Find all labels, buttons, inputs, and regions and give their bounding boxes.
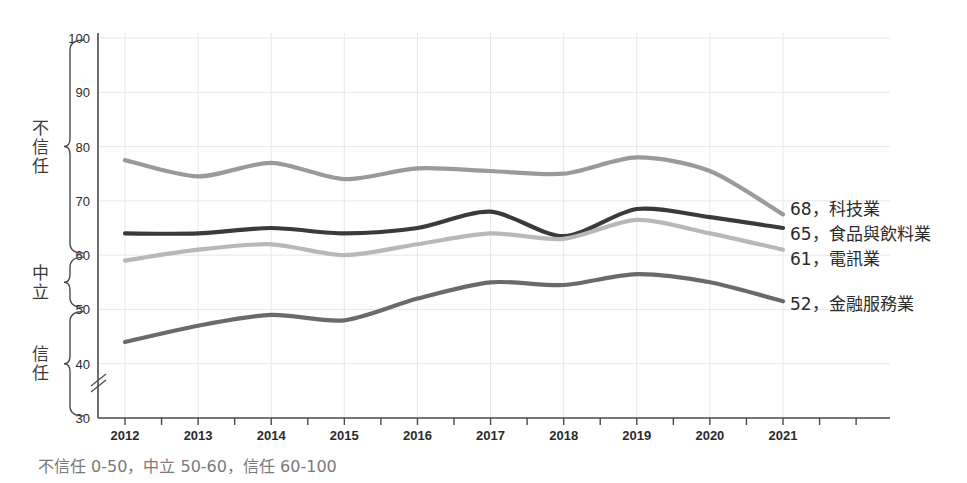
y-tick-label: 90 bbox=[76, 85, 90, 100]
y-tick-label: 50 bbox=[76, 302, 90, 317]
y-tick-labels: 10090807060504030 bbox=[68, 31, 90, 426]
series-line-3 bbox=[125, 220, 783, 261]
x-axis: 2012201320142015201620172018201920202021 bbox=[98, 418, 890, 443]
x-tick-label: 2020 bbox=[695, 428, 724, 443]
footnote-text: 不信任 0-50，中立 50-60，信任 60-100 bbox=[38, 457, 337, 476]
series-end-label-1: 68，科技業 bbox=[790, 199, 880, 219]
series-end-label-2: 65，食品與飲料業 bbox=[790, 224, 931, 244]
y-tick-label: 40 bbox=[76, 357, 90, 372]
series-end-label-3: 61，電訊業 bbox=[790, 249, 880, 269]
series-end-label-4: 52，金融服務業 bbox=[790, 294, 914, 314]
bracket-label-1: 信 bbox=[32, 137, 49, 157]
y-tick-label: 60 bbox=[76, 248, 90, 263]
x-tick-label: 2016 bbox=[403, 428, 432, 443]
bracket-label-2: 中 bbox=[32, 263, 49, 283]
x-tick-label: 2018 bbox=[549, 428, 578, 443]
bracket-label-2: 立 bbox=[32, 282, 49, 302]
x-tick-label: 2019 bbox=[622, 428, 651, 443]
x-tick-label: 2015 bbox=[330, 428, 359, 443]
series-line-4 bbox=[125, 274, 783, 342]
series-line-2 bbox=[125, 208, 783, 236]
bracket-label-1: 任 bbox=[32, 156, 49, 176]
x-tick-labels: 2012201320142015201620172018201920202021 bbox=[111, 418, 857, 443]
y-axis: 10090807060504030 bbox=[68, 31, 106, 426]
chart-svg: 10090807060504030 不信任中立信任 20122013201420… bbox=[0, 0, 967, 483]
x-tick-label: 2014 bbox=[257, 428, 287, 443]
y-tick-label: 80 bbox=[76, 140, 90, 155]
data-series-group bbox=[125, 157, 783, 342]
bracket-label-3: 任 bbox=[32, 363, 49, 383]
x-tick-label: 2021 bbox=[769, 428, 798, 443]
bracket-label-3: 信 bbox=[32, 344, 49, 364]
x-tick-label: 2012 bbox=[111, 428, 140, 443]
series-line-1 bbox=[125, 157, 783, 214]
y-tick-label: 70 bbox=[76, 194, 90, 209]
series-end-labels: 68，科技業65，食品與飲料業61，電訊業52，金融服務業 bbox=[790, 199, 931, 314]
x-tick-label: 2017 bbox=[476, 428, 505, 443]
x-tick-label: 2013 bbox=[184, 428, 213, 443]
trust-index-line-chart: 10090807060504030 不信任中立信任 20122013201420… bbox=[0, 0, 967, 483]
scale-bracket bbox=[64, 257, 84, 307]
y-tick-label: 30 bbox=[76, 411, 90, 426]
bracket-label-1: 不 bbox=[32, 118, 49, 138]
